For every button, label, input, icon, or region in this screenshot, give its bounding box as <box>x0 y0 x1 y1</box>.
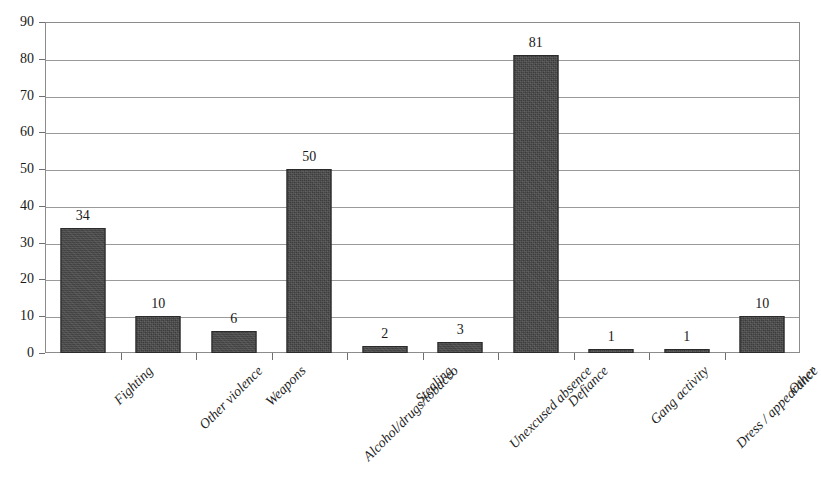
y-tick-label: 30 <box>20 236 34 250</box>
bar-slot: 10 <box>725 22 801 353</box>
bar[interactable] <box>136 316 181 353</box>
bar-value-label: 10 <box>151 297 165 311</box>
y-tick-label: 50 <box>20 162 34 176</box>
bar-value-label: 2 <box>381 327 388 341</box>
bars-layer: 341065023811110 <box>45 22 800 353</box>
x-axis-category-label: Fighting <box>111 363 156 408</box>
bar-slot: 3 <box>423 22 499 353</box>
x-axis-category-label: Other violence <box>197 363 266 432</box>
chart-title <box>0 0 805 5</box>
y-tick-label: 0 <box>27 346 34 360</box>
bar-slot: 81 <box>498 22 574 353</box>
bar-value-label: 1 <box>683 330 690 344</box>
bar-value-label: 50 <box>302 150 316 164</box>
y-tick-label: 70 <box>20 89 34 103</box>
bar[interactable] <box>287 169 332 353</box>
y-tick-label: 80 <box>20 52 34 66</box>
bar-slot: 50 <box>272 22 348 353</box>
bar[interactable] <box>362 346 407 353</box>
bar-slot: 10 <box>121 22 197 353</box>
bar-value-label: 1 <box>608 330 615 344</box>
bar[interactable] <box>740 316 785 353</box>
bar[interactable] <box>60 228 105 353</box>
x-axis-category-label: Unexcused absence <box>506 363 594 451</box>
x-axis-category-label: Weapons <box>262 363 308 409</box>
bar-slot: 1 <box>649 22 725 353</box>
y-tick-label: 10 <box>20 309 34 323</box>
bar[interactable] <box>438 342 483 353</box>
y-tick-label: 60 <box>20 125 34 139</box>
bar-slot: 2 <box>347 22 423 353</box>
bar[interactable] <box>211 331 256 353</box>
bar-value-label: 81 <box>529 36 543 50</box>
bar-slot: 34 <box>45 22 121 353</box>
bar-value-label: 10 <box>755 297 769 311</box>
bar-slot: 6 <box>196 22 272 353</box>
bar-slot: 1 <box>574 22 650 353</box>
bar-value-label: 34 <box>76 209 90 223</box>
bar[interactable] <box>513 55 558 353</box>
bar-value-label: 3 <box>457 323 464 337</box>
y-axis: 9080706050403020100 <box>0 0 45 380</box>
y-tick-label: 20 <box>20 272 34 286</box>
x-axis-category-label: Gang activity <box>647 363 711 427</box>
y-tick-label: 40 <box>20 199 34 213</box>
bar-value-label: 6 <box>230 312 237 326</box>
y-tick-label: 90 <box>20 15 34 29</box>
x-axis-labels: FightingOther violenceWeaponsAlcohol/dru… <box>45 353 800 491</box>
